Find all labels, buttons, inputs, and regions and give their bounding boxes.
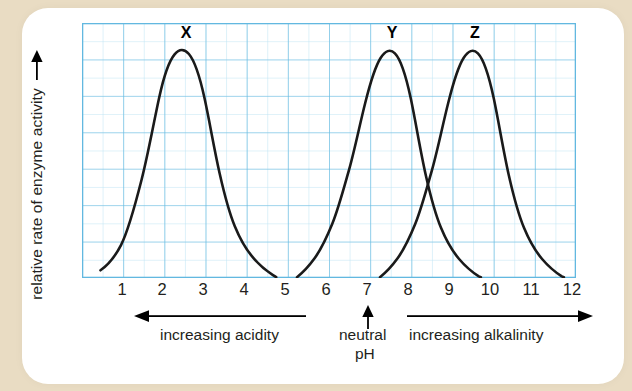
- x-tick-7: 7: [362, 281, 371, 298]
- x-tick-8: 8: [403, 281, 412, 298]
- x-tick-12: 12: [563, 281, 581, 298]
- curve-label-x: X: [181, 25, 192, 41]
- curve-x: [101, 50, 277, 277]
- neutral-annotation-line2: pH: [355, 345, 375, 363]
- x-tick-2: 2: [157, 281, 166, 298]
- curve-label-y: Y: [387, 25, 398, 41]
- x-tick-3: 3: [198, 281, 207, 298]
- y-axis-label-text: relative rate of enzyme activity: [28, 88, 46, 300]
- acidity-annotation-label: increasing acidity: [160, 326, 279, 344]
- right-arrow-icon: [407, 308, 593, 324]
- x-tick-10: 10: [481, 281, 499, 298]
- enzyme-ph-chart: relative rate of enzyme activity: [0, 0, 632, 391]
- x-tick-5: 5: [280, 281, 289, 298]
- y-axis-label: relative rate of enzyme activity: [22, 40, 52, 310]
- alkalinity-annotation-label: increasing alkalinity: [409, 326, 543, 344]
- chart-curves: [82, 23, 576, 278]
- neutral-annotation-line1: neutral: [339, 326, 386, 344]
- curve-label-z: Z: [470, 25, 480, 41]
- x-tick-4: 4: [239, 281, 248, 298]
- x-tick-1: 1: [117, 281, 126, 298]
- x-tick-11: 11: [522, 281, 539, 298]
- x-tick-6: 6: [321, 281, 330, 298]
- x-tick-9: 9: [444, 281, 453, 298]
- left-arrow-icon: [134, 308, 306, 324]
- up-arrow-icon: [30, 50, 44, 80]
- plot-area: X Y Z: [82, 23, 576, 278]
